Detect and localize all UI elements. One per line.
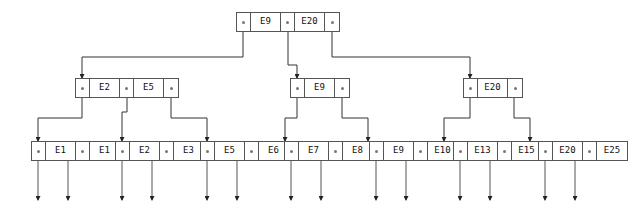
root-key-1: E20 <box>295 13 325 31</box>
leaf-1-key-0: E1 <box>46 142 76 160</box>
leaf-6-pointer-0[interactable] <box>454 142 468 160</box>
edge-root-to-internal-middle <box>288 32 297 78</box>
internal-left-pointer-0[interactable] <box>76 79 90 97</box>
leaf-2-pointer-1[interactable] <box>160 142 174 160</box>
internal-right-pointer-1[interactable] <box>508 79 522 97</box>
root-node[interactable]: E9 E20 <box>236 12 340 32</box>
leaf-2-pointer-0[interactable] <box>116 142 130 160</box>
leaf-3-pointer-1[interactable] <box>245 142 259 160</box>
leaf-4-pointer-0[interactable] <box>285 142 299 160</box>
leaf-1-pointer-0[interactable] <box>32 142 46 160</box>
internal-node-right[interactable]: E20 <box>463 78 523 98</box>
btree-diagram-canvas: E9 E20 E2 E5 E9 E20 E1 E1 E2 E3 <box>0 0 628 212</box>
internal-right-pointer-0[interactable] <box>464 79 478 97</box>
leaf-6-pointer-1[interactable] <box>498 142 512 160</box>
internal-left-key-0: E2 <box>90 79 120 97</box>
edge-internal-right-to-leaf-7 <box>514 98 530 141</box>
internal-middle-pointer-1[interactable] <box>335 79 349 97</box>
edge-internal-right-to-leaf-6 <box>444 98 470 141</box>
internal-left-pointer-1[interactable] <box>120 79 134 97</box>
root-pointer-0[interactable] <box>237 13 251 31</box>
edge-internal-middle-to-leaf-4 <box>285 98 297 141</box>
leaf-6-key-0: E13 <box>468 142 498 160</box>
edge-internal-left-to-leaf-1 <box>38 98 82 141</box>
internal-right-key-0: E20 <box>478 79 508 97</box>
leaf-7-pointer-1[interactable] <box>583 142 597 160</box>
root-key-0: E9 <box>251 13 281 31</box>
leaf-4-pointer-1[interactable] <box>329 142 343 160</box>
edge-root-to-internal-right <box>332 32 470 78</box>
leaf-2-key-0: E2 <box>130 142 160 160</box>
leaf-7-pointer-0[interactable] <box>539 142 553 160</box>
edge-internal-left-to-leaf-3 <box>171 98 207 141</box>
internal-middle-pointer-0[interactable] <box>291 79 305 97</box>
internal-left-pointer-2[interactable] <box>164 79 178 97</box>
leaf-7-key-1: E25 <box>597 142 627 160</box>
leaf-5-pointer-1[interactable] <box>414 142 428 160</box>
internal-node-middle[interactable]: E9 <box>290 78 350 98</box>
leaf-5-pointer-0[interactable] <box>370 142 384 160</box>
internal-middle-key-0: E9 <box>305 79 335 97</box>
leaf-3-pointer-0[interactable] <box>201 142 215 160</box>
edge-internal-middle-to-leaf-5 <box>342 98 368 141</box>
leaf-node-7[interactable]: E20 E25 <box>538 141 628 161</box>
internal-node-left[interactable]: E2 E5 <box>75 78 179 98</box>
root-pointer-2[interactable] <box>325 13 339 31</box>
leaf-record-pointers <box>38 161 575 200</box>
leaf-4-key-0: E7 <box>299 142 329 160</box>
root-pointer-1[interactable] <box>281 13 295 31</box>
leaf-7-key-0: E20 <box>553 142 583 160</box>
leaf-5-key-0: E9 <box>384 142 414 160</box>
internal-left-key-1: E5 <box>134 79 164 97</box>
leaf-1-pointer-1[interactable] <box>76 142 90 160</box>
leaf-3-key-0: E5 <box>215 142 245 160</box>
edge-root-to-internal-left <box>82 32 243 78</box>
edge-internal-left-to-leaf-2 <box>122 98 127 141</box>
